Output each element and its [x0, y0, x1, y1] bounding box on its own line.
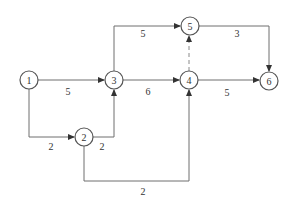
edge-label-4-6: 5: [225, 87, 230, 98]
edge-2-4: [84, 90, 189, 181]
node-5: 5: [181, 17, 199, 35]
edge-2-3: [93, 90, 114, 137]
edge-label-3-4: 6: [146, 86, 151, 97]
node-6: 6: [260, 72, 278, 90]
node-3: 3: [105, 71, 123, 89]
edge-label-2-4: 2: [141, 186, 146, 197]
edge-label-3-5: 5: [141, 28, 146, 39]
node-2: 2: [75, 128, 93, 146]
network-diagram: 5 2 2 2 5 6 3 5 1 2 3 4 5 6: [0, 0, 294, 206]
node-1: 1: [20, 71, 38, 89]
edge-label-2-3: 2: [100, 141, 105, 152]
edge-label-1-2: 2: [49, 141, 54, 152]
node-label-6: 6: [267, 76, 272, 87]
edge-3-5: [114, 26, 180, 71]
node-label-3: 3: [112, 75, 117, 86]
node-label-5: 5: [188, 21, 193, 32]
edge-label-5-6: 3: [235, 28, 240, 39]
node-label-2: 2: [82, 132, 87, 143]
node-label-4: 4: [187, 75, 192, 86]
node-label-1: 1: [27, 75, 32, 86]
edge-label-1-3: 5: [66, 86, 71, 97]
node-4: 4: [180, 71, 198, 89]
